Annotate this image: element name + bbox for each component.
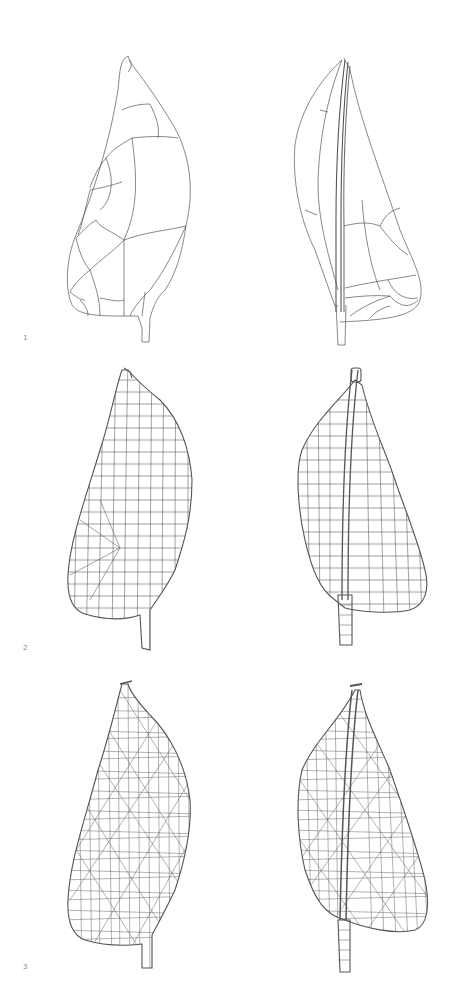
row-label-3: 3 [23,962,27,971]
row-3-right-mesh [0,660,451,990]
row-1-right-mesh [0,0,451,360]
row-2-right-mesh [0,330,451,660]
row-label-2: 2 [23,643,27,652]
